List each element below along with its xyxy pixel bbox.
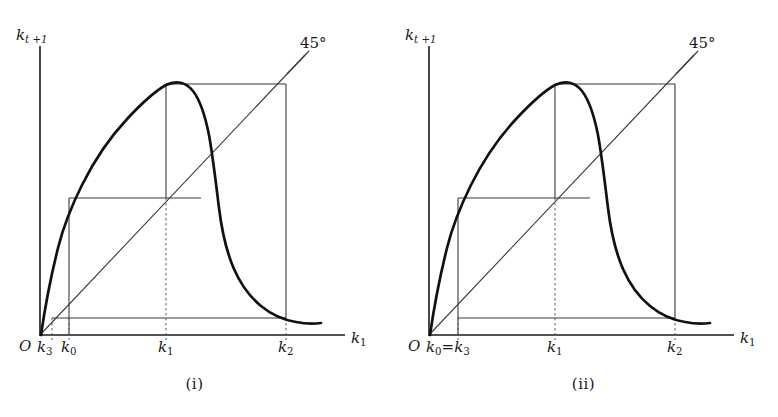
- diagonal-45-label: 45°: [300, 34, 327, 52]
- x-axis-label: k1: [351, 329, 367, 348]
- y-axis-label: kt +1: [405, 26, 436, 45]
- x-tick-k1: k1: [547, 338, 563, 357]
- panel-i: kt +1 k1 45° O k3 k0 k1 k2 (i): [0, 0, 389, 417]
- origin-label: O: [19, 337, 31, 355]
- x-tick-k2: k2: [278, 338, 294, 357]
- panel-ii-caption: (ii): [389, 375, 778, 393]
- production-map-curve: [41, 82, 321, 335]
- tick-droplines: [52, 198, 286, 340]
- y-axis-label: kt +1: [16, 26, 47, 45]
- origin-label: O: [408, 337, 420, 355]
- figure-container: kt +1 k1 45° O k3 k0 k1 k2 (i): [0, 0, 778, 417]
- production-map-curve: [430, 82, 710, 335]
- x-tick-k3: k3: [37, 338, 53, 357]
- diagonal-45-label: 45°: [689, 34, 716, 52]
- x-axis-label: k1: [740, 329, 756, 348]
- x-tick-k1: k1: [158, 338, 174, 357]
- panel-i-caption: (i): [0, 375, 389, 393]
- diagonal-45-line: [40, 51, 309, 335]
- x-tick-k0-equals-k3: k0=k3: [426, 338, 470, 357]
- panel-i-plot: [0, 0, 389, 417]
- x-tick-k2: k2: [667, 338, 683, 357]
- tick-droplines: [458, 198, 675, 340]
- cobweb-path: [458, 84, 675, 334]
- panel-ii: kt +1 k1 45° O k0=k3 k1 k2 (ii): [389, 0, 778, 417]
- x-tick-k0: k0: [61, 338, 77, 357]
- diagonal-45-line: [429, 51, 698, 335]
